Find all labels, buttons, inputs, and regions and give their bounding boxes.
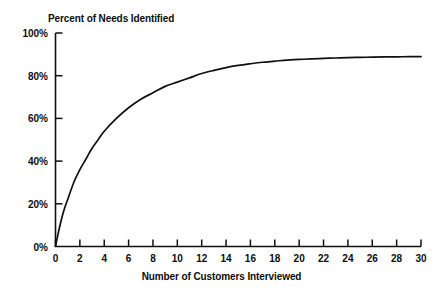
x-tick-label: 14 [221, 253, 232, 264]
y-tick-label: 0% [0, 241, 48, 252]
y-tick-label: 40% [0, 156, 48, 167]
x-tick-label: 12 [196, 253, 207, 264]
x-tick-label: 28 [391, 253, 402, 264]
y-axis-ticks [56, 33, 63, 204]
y-tick-label: 60% [0, 113, 48, 124]
x-tick-label: 4 [101, 253, 107, 264]
chart-container: Percent of Needs Identified 0%20%40%60%8… [0, 0, 443, 297]
x-tick-label: 6 [126, 253, 132, 264]
x-tick-label: 18 [269, 253, 280, 264]
x-tick-label: 20 [294, 253, 305, 264]
x-axis-ticks [56, 240, 422, 247]
x-tick-label: 0 [53, 253, 59, 264]
x-tick-label: 16 [245, 253, 256, 264]
x-tick-label: 10 [172, 253, 183, 264]
x-tick-label: 26 [367, 253, 378, 264]
x-tick-label: 22 [318, 253, 329, 264]
x-axis-title: Number of Customers Interviewed [0, 271, 443, 282]
x-tick-label: 2 [77, 253, 83, 264]
data-series-line [56, 57, 422, 247]
y-tick-label: 100% [0, 28, 48, 39]
y-tick-label: 80% [0, 70, 48, 81]
x-tick-label: 8 [150, 253, 156, 264]
x-tick-label: 30 [415, 253, 426, 264]
x-tick-label: 24 [342, 253, 353, 264]
y-tick-label: 20% [0, 198, 48, 209]
